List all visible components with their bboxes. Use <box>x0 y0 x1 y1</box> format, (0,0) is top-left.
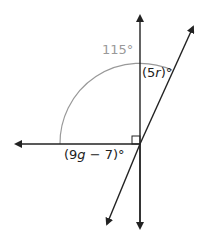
angle-label-5r: (5r)° <box>142 65 172 80</box>
angle-diagram <box>0 0 203 237</box>
right-angle-mark <box>132 136 140 144</box>
diagonal-line-up <box>140 27 193 144</box>
angle-label-9g-7: (9g − 7)° <box>64 147 125 162</box>
angle-label-115: 115° <box>102 42 133 57</box>
